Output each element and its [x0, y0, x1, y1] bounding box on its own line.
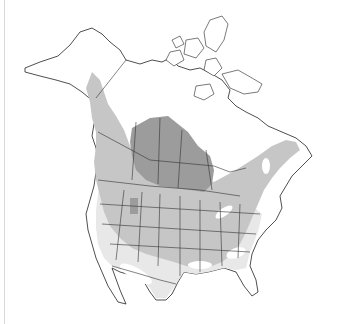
north-america-map [0, 0, 345, 324]
range-map [0, 0, 345, 324]
range-gap [262, 158, 270, 174]
